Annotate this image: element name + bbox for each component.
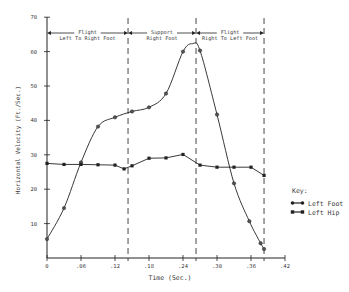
x-axis-label: Time (Sec.) — [148, 274, 191, 282]
phase-boundaries — [128, 18, 264, 261]
circle-marker-icon — [291, 201, 295, 205]
x-tick-label: 0 — [45, 263, 48, 269]
data-point — [45, 237, 48, 240]
x-tick-label: .18 — [144, 263, 154, 269]
velocity-chart: 102030405060700.06.12.18.24.30.36.42 Fli… — [0, 0, 349, 292]
y-tick-label: 10 — [30, 221, 37, 227]
data-series — [45, 43, 265, 251]
y-tick-label: 40 — [30, 117, 37, 123]
data-point — [164, 92, 167, 95]
data-point — [96, 163, 99, 166]
y-tick-label: 60 — [30, 49, 37, 55]
y-axis-label: Horizontal Velocity (Ft./Sec.) — [14, 86, 22, 194]
data-point — [249, 166, 252, 169]
arrowhead-right-icon — [124, 31, 128, 35]
phase-annotation: FlightRight To Left Foot — [196, 29, 264, 42]
data-point — [122, 167, 125, 170]
data-point — [147, 157, 150, 160]
data-point — [232, 166, 235, 169]
phase-annotations: FlightLeft To Right FootSupportRight Foo… — [47, 29, 264, 42]
data-point — [248, 219, 251, 222]
data-point — [147, 106, 150, 109]
data-point — [113, 116, 116, 119]
x-tick-label: .30 — [212, 263, 222, 269]
svg-text:Right To Left Foot: Right To Left Foot — [202, 35, 258, 42]
data-point — [62, 206, 65, 209]
arrowhead-right-icon — [192, 31, 196, 35]
data-point — [262, 247, 265, 250]
data-point — [113, 164, 116, 167]
square-marker-icon — [291, 210, 294, 213]
svg-text:Left To Right Foot: Left To Right Foot — [59, 35, 115, 42]
legend: Key: Left Foot Left Hip — [291, 187, 344, 217]
arrowhead-left-icon — [128, 31, 132, 35]
data-point — [181, 50, 184, 53]
series-left-foot — [45, 43, 265, 251]
svg-text:Right Foot: Right Foot — [146, 35, 177, 42]
x-tick-label: .42 — [280, 263, 290, 269]
x-tick-label: .06 — [76, 263, 86, 269]
circle-marker-icon — [301, 201, 305, 205]
y-tick-label: 50 — [30, 83, 37, 89]
legend-label: Left Hip — [308, 209, 339, 217]
x-tick-label: .36 — [246, 263, 256, 269]
arrowhead-left-icon — [47, 31, 51, 35]
phase-annotation: SupportRight Foot — [128, 29, 196, 42]
arrowhead-left-icon — [196, 31, 200, 35]
x-tick-label: .12 — [110, 263, 120, 269]
data-point — [79, 163, 82, 166]
x-tick-label: .24 — [178, 263, 189, 269]
y-tick-label: 20 — [30, 186, 37, 192]
y-tick-label: 30 — [30, 152, 37, 158]
data-point — [262, 174, 265, 177]
legend-item-left-foot: Left Foot — [291, 200, 344, 208]
legend-label: Left Foot — [308, 200, 343, 208]
phase-annotation: FlightLeft To Right Foot — [47, 29, 128, 42]
data-point — [198, 164, 201, 167]
axes: 102030405060700.06.12.18.24.30.36.42 — [30, 14, 290, 269]
square-marker-icon — [301, 210, 304, 213]
series-left-hip — [45, 153, 265, 177]
y-tick-label: 70 — [30, 14, 37, 20]
data-point — [130, 164, 133, 167]
data-point — [215, 113, 218, 116]
data-point — [198, 49, 201, 52]
data-point — [45, 162, 48, 165]
legend-title: Key: — [292, 187, 308, 195]
legend-item-left-hip: Left Hip — [291, 209, 340, 217]
data-point — [62, 163, 65, 166]
data-point — [96, 125, 99, 128]
data-point — [130, 110, 133, 113]
data-point — [181, 153, 184, 156]
data-point — [259, 242, 262, 245]
arrowhead-right-icon — [260, 31, 264, 35]
data-point — [164, 156, 167, 159]
data-point — [215, 166, 218, 169]
data-point — [232, 182, 235, 185]
